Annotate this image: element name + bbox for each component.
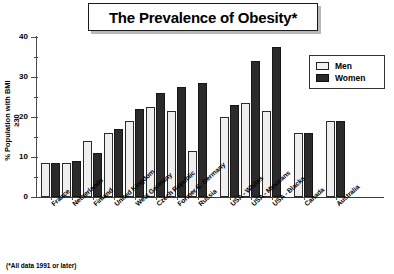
chart-figure: The Prevalence of Obesity* % Population … bbox=[0, 0, 394, 274]
bar-women bbox=[51, 163, 60, 197]
legend-swatch-women-icon bbox=[316, 74, 329, 82]
legend-label-women: Women bbox=[335, 73, 366, 83]
bar-series-area bbox=[0, 0, 394, 197]
bar-men bbox=[220, 117, 229, 197]
bar-women bbox=[230, 105, 239, 197]
legend-item-women: Women bbox=[316, 72, 384, 84]
legend-label-men: Men bbox=[335, 61, 352, 71]
bar-men bbox=[326, 121, 335, 197]
y-tick-0 bbox=[31, 197, 38, 198]
bar-women bbox=[114, 129, 123, 197]
bar-women bbox=[336, 121, 345, 197]
footnote: (*All data 1991 or later) bbox=[6, 262, 76, 269]
legend-item-men: Men bbox=[316, 60, 384, 72]
legend: Men Women bbox=[309, 55, 385, 89]
legend-swatch-men-icon bbox=[316, 62, 329, 70]
bar-women bbox=[304, 133, 313, 197]
bar-men bbox=[41, 163, 50, 197]
bar-women bbox=[72, 161, 81, 197]
